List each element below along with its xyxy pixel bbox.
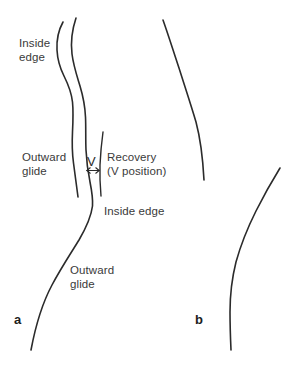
label-outward-glide-upper-line2: glide [22, 165, 47, 177]
label-outward-glide-upper: Outwardglide [22, 151, 66, 178]
curve-recovery-v-right [100, 132, 103, 196]
panel-letter-b: b [195, 313, 203, 326]
label-outward-glide-upper-line1: Outward [22, 151, 66, 163]
label-outward-glide-lower-line2: glide [70, 278, 95, 290]
label-recovery-line2: (V position) [107, 165, 166, 177]
curve-panel-b-lower [230, 168, 280, 350]
curve-panel-b-upper [163, 20, 204, 180]
label-inside-edge-top-line2: edge [19, 51, 45, 63]
label-outward-glide-lower-line1: Outward [70, 264, 114, 276]
label-recovery: Recovery(V position) [107, 151, 166, 178]
panel-letter-a: a [14, 313, 21, 326]
label-inside-edge-mid: Inside edge [104, 205, 165, 219]
label-inside-edge-top: Insideedge [19, 37, 50, 64]
label-recovery-line1: Recovery [107, 151, 156, 163]
label-v-marker: V [87, 155, 96, 168]
curve-main-outer-edge [31, 18, 93, 350]
label-outward-glide-lower: Outwardglide [70, 264, 114, 291]
label-inside-edge-top-line1: Inside [19, 37, 50, 49]
skating-track-diagram: Insideedge Outwardglide V Recovery(V pos… [0, 0, 299, 369]
